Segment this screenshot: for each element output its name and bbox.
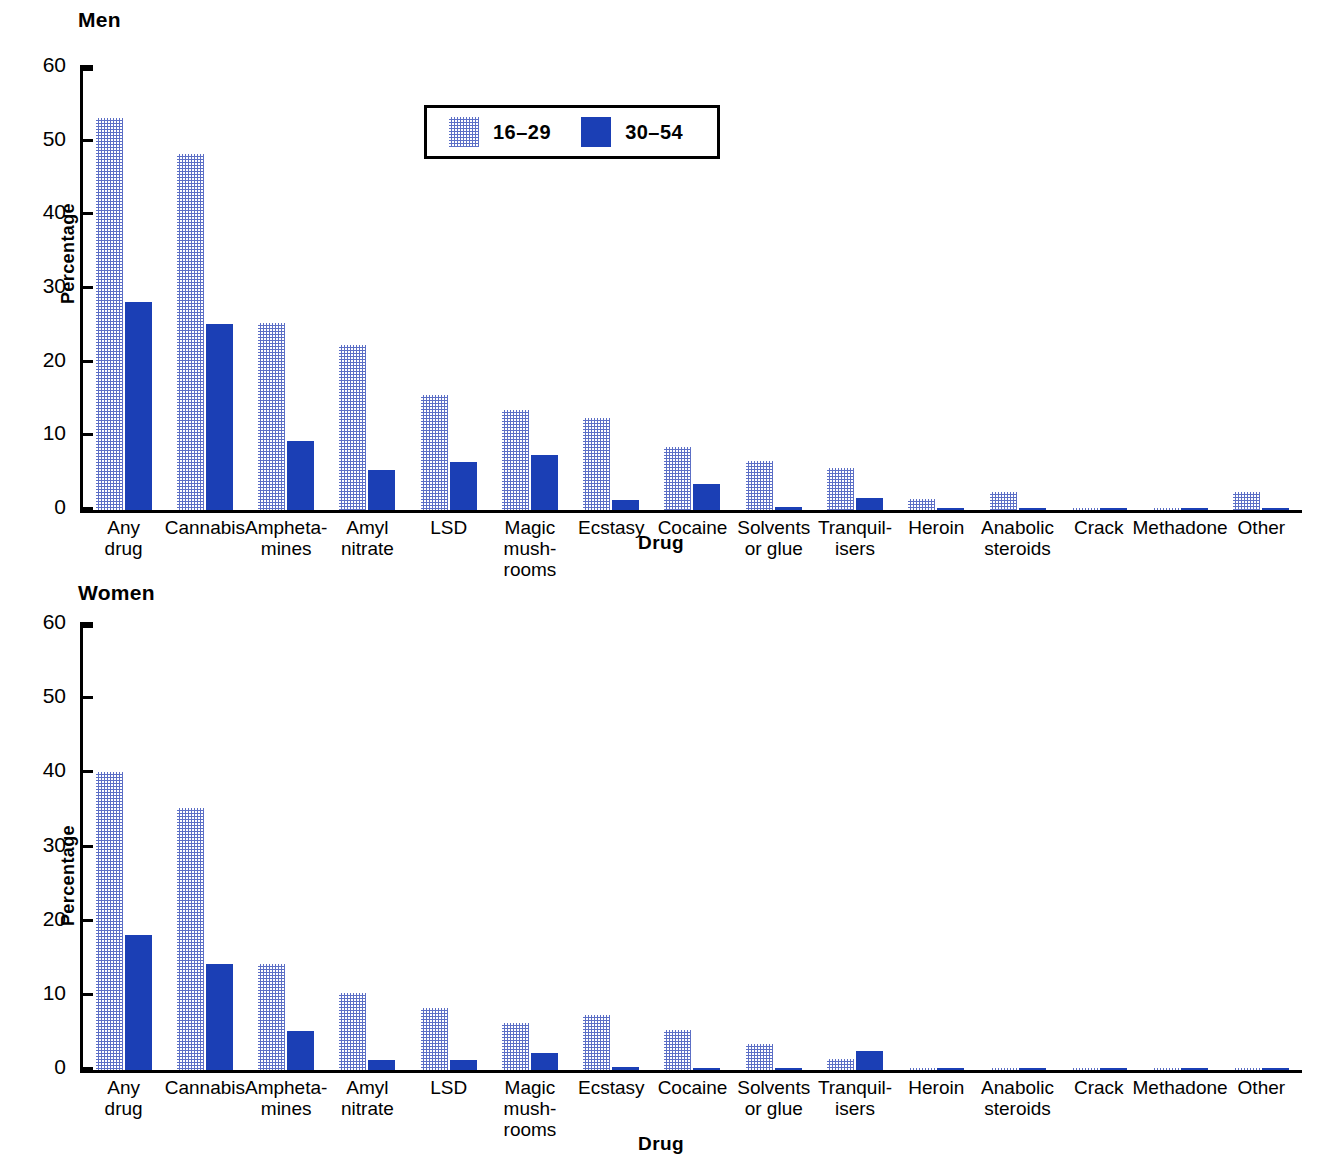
bar-old: [368, 1060, 395, 1070]
legend-swatch-old-icon: [581, 117, 611, 147]
legend-item-old-men: 30–54: [581, 117, 695, 147]
bar-old: [206, 964, 233, 1070]
legend-label-young: 16–29: [493, 121, 551, 144]
bar-group: Amyl nitrate: [327, 68, 408, 510]
bar-group: Cannabis: [164, 625, 245, 1070]
legend-swatch-young-icon: [449, 117, 479, 147]
bar-old: [775, 1068, 802, 1070]
bar-group: Methadone: [1139, 625, 1220, 1070]
x-axis-label: Heroin: [908, 1078, 964, 1099]
x-axis-label: Cannabis: [165, 1078, 245, 1099]
panel-title-men: Men: [78, 8, 121, 32]
bar-young: [827, 468, 854, 510]
bar-young: [827, 1059, 854, 1070]
bar-old: [937, 508, 964, 510]
bar-young: [1233, 1068, 1260, 1070]
bar-group: Ecstasy: [571, 625, 652, 1070]
x-axis-label: Any drug: [103, 1078, 144, 1120]
bar-old: [693, 484, 720, 510]
y-tick-label: 20: [43, 349, 66, 370]
bar-group: Tranquil- isers: [814, 68, 895, 510]
bar-old: [1181, 508, 1208, 510]
bar-young: [258, 964, 285, 1070]
bar-old: [1262, 508, 1289, 510]
y-tick-label: 60: [43, 611, 66, 632]
bar-group: Magic mush- rooms: [489, 625, 570, 1070]
bar-group: Anabolic steroids: [977, 68, 1058, 510]
bar-young: [258, 323, 285, 510]
bar-young: [746, 1044, 773, 1070]
bar-group: Ampheta- mines: [246, 68, 327, 510]
bar-young: [421, 395, 448, 510]
bar-old: [1100, 508, 1127, 510]
bar-group: Anabolic steroids: [977, 625, 1058, 1070]
x-axis-label: LSD: [430, 1078, 467, 1099]
x-axis-label: Ecstasy: [578, 1078, 645, 1099]
bar-group: Heroin: [896, 68, 977, 510]
legend-item-young-men: 16–29: [449, 117, 563, 147]
bar-old: [856, 1051, 883, 1070]
bar-young: [339, 993, 366, 1070]
bar-old: [612, 500, 639, 510]
bar-young: [664, 1030, 691, 1070]
bar-group: LSD: [408, 625, 489, 1070]
bar-old: [206, 324, 233, 510]
bar-young: [746, 461, 773, 510]
bar-old: [125, 935, 152, 1070]
x-axis-label: Crack: [1074, 1078, 1124, 1099]
y-tick-label: 40: [43, 759, 66, 780]
bar-old: [450, 1060, 477, 1070]
legend-men: 16–29 30–54: [424, 105, 720, 159]
bar-old: [1019, 508, 1046, 510]
x-axis-label: Tranquil- isers: [818, 1078, 892, 1120]
bar-group: Solvents or glue: [733, 625, 814, 1070]
x-axis-label: Anabolic steroids: [981, 1078, 1054, 1120]
bar-young: [990, 492, 1017, 510]
bar-old: [287, 1031, 314, 1070]
bar-young: [177, 808, 204, 1070]
bar-old: [1100, 1068, 1127, 1070]
x-axis-label: Solvents or glue: [737, 1078, 810, 1120]
bar-groups-women: Any drugCannabisAmpheta- minesAmyl nitra…: [83, 625, 1302, 1070]
plot-area-women: Percentage 6050403020100 Any drugCannabi…: [80, 625, 1302, 1070]
bar-group: Any drug: [83, 625, 164, 1070]
bar-young: [421, 1008, 448, 1070]
bar-group: Any drug: [83, 68, 164, 510]
panel-title-women: Women: [78, 581, 155, 605]
legend-label-old: 30–54: [625, 121, 683, 144]
bar-old: [368, 470, 395, 510]
x-axis-label: Methadone: [1133, 1078, 1228, 1099]
bar-old: [287, 441, 314, 510]
bar-young: [1071, 508, 1098, 510]
x-axis-label: Magic mush- rooms: [504, 1078, 557, 1141]
y-tick-label: 40: [43, 201, 66, 222]
y-tick-label: 10: [43, 422, 66, 443]
bar-young: [502, 1023, 529, 1070]
bar-group: Methadone: [1139, 68, 1220, 510]
y-tick-label: 30: [43, 275, 66, 296]
bar-young: [502, 410, 529, 510]
chart-panel-women: Women Percentage 6050403020100 Any drugC…: [0, 575, 1322, 1165]
x-axis-title-men: Drug: [0, 532, 1322, 554]
bar-old: [1262, 1068, 1289, 1070]
bar-group: Heroin: [896, 625, 977, 1070]
bar-old: [856, 498, 883, 510]
bar-young: [990, 1068, 1017, 1070]
bar-old: [693, 1068, 720, 1070]
bar-old: [937, 1068, 964, 1070]
bar-group: Other: [1221, 68, 1302, 510]
x-axis-label: Ampheta- mines: [245, 1078, 327, 1120]
bar-group: Tranquil- isers: [814, 625, 895, 1070]
bar-young: [664, 447, 691, 510]
bar-young: [1071, 1068, 1098, 1070]
bar-young: [583, 418, 610, 510]
bar-young: [339, 345, 366, 510]
bar-young: [908, 1068, 935, 1070]
bar-old: [1019, 1068, 1046, 1070]
y-tick-label: 60: [43, 54, 66, 75]
bar-old: [775, 507, 802, 510]
x-axis-line-women: [80, 1070, 1302, 1073]
y-tick-label: 50: [43, 685, 66, 706]
bar-old: [125, 302, 152, 510]
y-tick-label: 50: [43, 128, 66, 149]
